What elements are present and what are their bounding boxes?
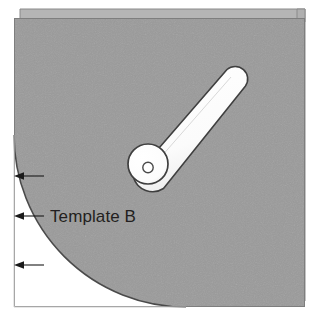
template-b-illustration: Template B (0, 0, 318, 318)
template-b-label: Template B (50, 207, 136, 226)
figure-container: Template B (0, 0, 318, 318)
lever-knob[interactable] (128, 144, 168, 184)
knob-center-hole (143, 162, 153, 172)
